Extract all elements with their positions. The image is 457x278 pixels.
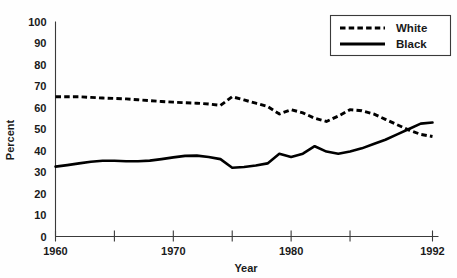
x-tick-label: 1992 (420, 245, 444, 257)
line-chart: 0102030405060708090100 1960197019801992 … (0, 0, 457, 278)
legend-box (331, 16, 451, 56)
y-tick-label: 10 (34, 209, 46, 221)
x-tick-label: 1960 (43, 245, 67, 257)
y-tick-label: 0 (40, 231, 46, 243)
x-axis-title: Year (234, 262, 258, 274)
chart-legend: White Black (331, 16, 451, 56)
y-tick-label: 100 (28, 16, 46, 28)
y-tick-label: 20 (34, 188, 46, 200)
y-axis-title: Percent (4, 119, 16, 160)
x-axis-tick-labels: 1960197019801992 (43, 245, 444, 257)
y-tick-label: 60 (34, 102, 46, 114)
x-tick-label: 1970 (161, 245, 185, 257)
series-line-black (56, 123, 433, 168)
y-tick-label: 40 (34, 145, 46, 157)
series-line-white (56, 97, 433, 137)
y-tick-label: 50 (34, 123, 46, 135)
legend-label-black: Black (396, 38, 427, 50)
y-tick-label: 80 (34, 59, 46, 71)
x-tick-label: 1980 (279, 245, 303, 257)
y-tick-label: 30 (34, 166, 46, 178)
chart-container: 0102030405060708090100 1960197019801992 … (0, 0, 457, 278)
y-axis-tick-labels: 0102030405060708090100 (28, 16, 46, 243)
legend-label-white: White (396, 22, 427, 34)
y-tick-label: 70 (34, 80, 46, 92)
y-tick-label: 90 (34, 37, 46, 49)
